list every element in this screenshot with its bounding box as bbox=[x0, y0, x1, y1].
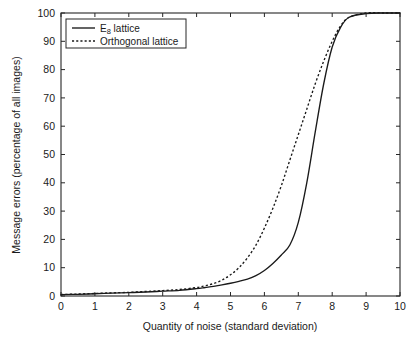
legend-label-e8-tail: lattice bbox=[111, 23, 140, 34]
x-tick-label-2: 2 bbox=[126, 300, 132, 312]
chart-figure: 012345678910 0102030405060708090100 Quan… bbox=[0, 0, 412, 337]
chart-legend[interactable]: E8 lattice Orthogonal lattice bbox=[66, 19, 186, 48]
y-axis-title: Message errors (percentage of all images… bbox=[10, 56, 22, 253]
y-tick-label-20: 20 bbox=[43, 233, 55, 245]
series-orthogonal-lattice bbox=[61, 13, 400, 295]
legend-label-orthogonal-lattice: Orthogonal lattice bbox=[100, 36, 179, 47]
y-tick-label-0: 0 bbox=[49, 290, 55, 302]
y-tick-label-10: 10 bbox=[43, 261, 55, 273]
x-tick-label-8: 8 bbox=[329, 300, 335, 312]
y-tick-label-50: 50 bbox=[43, 148, 55, 160]
line-chart: 012345678910 0102030405060708090100 Quan… bbox=[0, 0, 412, 337]
plot-frame bbox=[61, 13, 400, 296]
x-tick-label-5: 5 bbox=[228, 300, 234, 312]
x-tick-label-1: 1 bbox=[92, 300, 98, 312]
x-tick-label-0: 0 bbox=[58, 300, 64, 312]
x-tick-label-7: 7 bbox=[295, 300, 301, 312]
y-tick-label-60: 60 bbox=[43, 120, 55, 132]
y-axis-ticks bbox=[61, 13, 400, 296]
x-tick-label-3: 3 bbox=[160, 300, 166, 312]
y-tick-label-100: 100 bbox=[37, 7, 55, 19]
y-tick-label-90: 90 bbox=[43, 35, 55, 47]
y-tick-label-40: 40 bbox=[43, 176, 55, 188]
x-tick-label-9: 9 bbox=[363, 300, 369, 312]
series-e8-lattice bbox=[61, 13, 400, 295]
x-tick-label-10: 10 bbox=[394, 300, 406, 312]
y-tick-label-30: 30 bbox=[43, 205, 55, 217]
y-axis-tick-labels: 0102030405060708090100 bbox=[37, 7, 55, 302]
x-tick-label-6: 6 bbox=[261, 300, 267, 312]
x-axis-ticks bbox=[61, 13, 400, 296]
data-series-group bbox=[61, 13, 400, 295]
y-tick-label-80: 80 bbox=[43, 63, 55, 75]
x-axis-tick-labels: 012345678910 bbox=[58, 300, 406, 312]
x-axis-title: Quantity of noise (standard deviation) bbox=[143, 320, 318, 332]
x-tick-label-4: 4 bbox=[194, 300, 200, 312]
y-tick-label-70: 70 bbox=[43, 92, 55, 104]
